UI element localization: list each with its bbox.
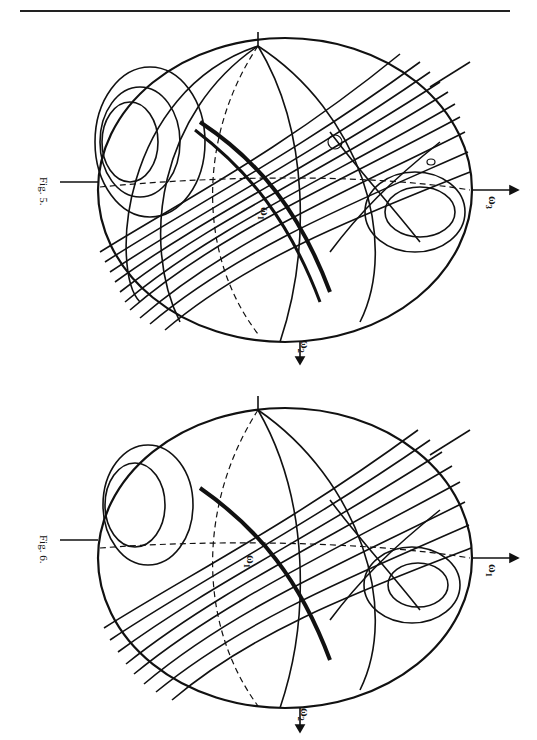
axis-label-omega1: ω1 [484, 564, 500, 577]
omega-subscript: 2 [296, 717, 305, 721]
figure-caption: Fig. 5. [38, 177, 50, 205]
omega-subscript: 2 [296, 349, 305, 353]
omega-subscript: 1 [256, 216, 265, 220]
ellipsoid-diagram-fig5 [0, 12, 537, 372]
omega-symbol: ω [298, 340, 312, 349]
axis-label-omega3: ω3 [484, 196, 500, 209]
omega-subscript: 1 [242, 564, 251, 568]
omega-symbol: ω [258, 207, 272, 216]
omega-symbol: ω [298, 708, 312, 717]
axis-label-omega-inner: ω1 [242, 555, 258, 568]
figure-6: Fig. 6. ω1 ω2 ω1 [0, 380, 537, 740]
figure-caption: Fig. 6. [38, 535, 50, 563]
axis-label-omega2: ω2 [296, 708, 312, 721]
omega-subscript: 3 [484, 205, 493, 209]
omega-subscript: 1 [484, 573, 493, 577]
omega-symbol: ω [486, 564, 500, 573]
axis-label-omega1: ω1 [256, 207, 272, 220]
omega-symbol: ω [244, 555, 258, 564]
ellipsoid-diagram-fig6 [0, 380, 537, 740]
figure-5: Fig. 5. ω3 ω2 ω1 [0, 12, 537, 372]
axis-label-omega2: ω2 [296, 340, 312, 353]
omega-symbol: ω [486, 196, 500, 205]
